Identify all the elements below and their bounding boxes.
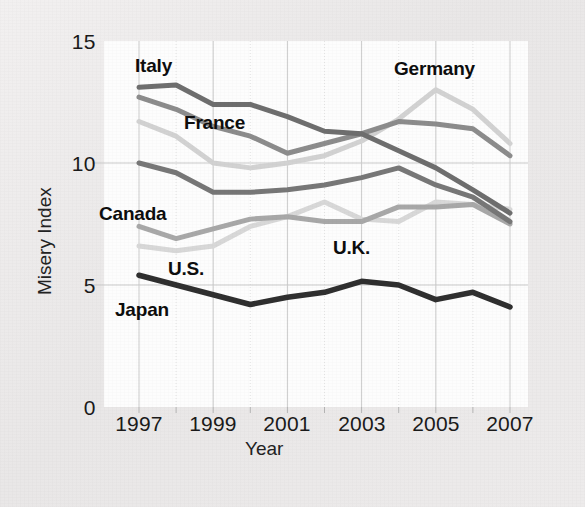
misery-index-chart-figure: 15 10 5 0 1997 1999 2001 2003 2005 2007 …	[0, 0, 585, 507]
page-background: 15 10 5 0 1997 1999 2001 2003 2005 2007 …	[0, 0, 585, 507]
series-label-us: U.S.	[168, 258, 204, 280]
x-tick-2003: 2003	[322, 412, 402, 436]
x-tick-1997: 1997	[99, 412, 179, 436]
series-label-italy: Italy	[135, 55, 172, 77]
y-tick-5: 5	[56, 274, 96, 298]
x-tick-2001: 2001	[247, 412, 327, 436]
x-axis-title: Year	[245, 438, 283, 460]
series-label-canada: Canada	[99, 203, 166, 225]
series-label-germany: Germany	[394, 58, 475, 80]
plot-area-background	[104, 41, 528, 407]
series-label-japan: Japan	[115, 299, 169, 321]
x-tick-2007: 2007	[470, 412, 550, 436]
series-label-france: France	[184, 112, 245, 134]
y-tick-0: 0	[56, 396, 96, 420]
y-tick-15: 15	[56, 30, 96, 54]
y-axis-title: Misery Index	[34, 187, 56, 295]
x-tick-2005: 2005	[396, 412, 476, 436]
y-tick-10: 10	[56, 152, 96, 176]
series-label-uk: U.K.	[333, 237, 370, 259]
x-tick-1999: 1999	[173, 412, 253, 436]
